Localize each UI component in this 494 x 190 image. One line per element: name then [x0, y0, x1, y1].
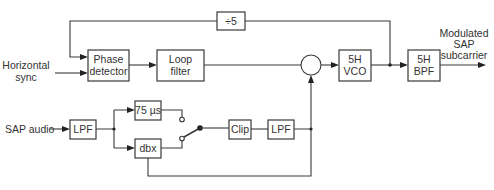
arrow-icon	[149, 62, 157, 68]
svg-text:Loop: Loop	[169, 53, 193, 65]
arrow-icon	[80, 54, 88, 60]
sap-encoder-block-diagram: ÷5 Horizontal sync Phase detector Loop f…	[0, 0, 494, 190]
clip-block: Clip	[229, 120, 251, 139]
svg-text:BPF: BPF	[414, 65, 434, 77]
preemph-wire	[161, 110, 182, 117]
switch-terminal-upper	[180, 117, 185, 122]
arrow-icon	[62, 126, 70, 132]
arrow-icon	[400, 62, 408, 68]
output-label: Modulated SAP subcarrier	[439, 27, 488, 61]
lpf-input-block: LPF	[70, 120, 96, 139]
sap-audio-label: SAP audio	[5, 123, 55, 135]
vco-block: 5H VCO	[339, 50, 371, 81]
svg-text:÷5: ÷5	[225, 15, 237, 27]
arrow-icon	[308, 75, 314, 83]
phase-detector-block: Phase detector	[88, 50, 129, 81]
svg-text:5H: 5H	[417, 53, 430, 65]
dbx-block: dbx	[135, 139, 161, 158]
divider-block: ÷5	[217, 12, 245, 30]
svg-text:75 µs: 75 µs	[135, 104, 161, 116]
arrow-icon	[478, 62, 486, 68]
svg-text:VCO: VCO	[344, 65, 367, 77]
svg-text:5H: 5H	[348, 53, 361, 65]
svg-text:LPF: LPF	[73, 123, 92, 135]
svg-text:sync: sync	[15, 71, 37, 83]
svg-text:detector: detector	[90, 65, 128, 77]
arrow-icon	[331, 62, 339, 68]
junction-dot	[112, 127, 115, 130]
svg-text:Horizontal: Horizontal	[2, 59, 49, 71]
svg-text:LPF: LPF	[271, 123, 290, 135]
svg-text:Clip: Clip	[231, 123, 249, 135]
horizontal-sync-label: Horizontal sync	[2, 59, 49, 83]
svg-text:dbx: dbx	[140, 142, 158, 154]
arrow-icon	[127, 107, 135, 113]
svg-text:Phase: Phase	[94, 53, 124, 65]
svg-text:filter: filter	[171, 65, 191, 77]
dbx-wire	[161, 141, 182, 148]
arrow-icon	[127, 145, 135, 151]
loop-filter-block: Loop filter	[157, 50, 204, 81]
summing-junction	[301, 55, 321, 75]
lpf-to-summer-wire	[294, 81, 311, 129]
lpf-output-block: LPF	[268, 120, 294, 139]
junction-dot	[388, 63, 392, 67]
bpf-block: 5H BPF	[408, 50, 440, 81]
preemphasis-block: 75 µs	[135, 101, 161, 120]
svg-text:subcarrier: subcarrier	[441, 49, 488, 61]
arrow-icon	[80, 70, 88, 76]
switch-terminal-lower	[180, 136, 185, 141]
